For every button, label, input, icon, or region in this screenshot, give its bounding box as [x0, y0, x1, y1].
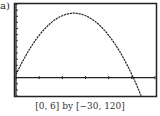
- window-caption: [0, 6] by [−30, 120]: [0, 101, 160, 111]
- graph-frame: [15, 4, 157, 97]
- graph-window: [0, 0, 160, 100]
